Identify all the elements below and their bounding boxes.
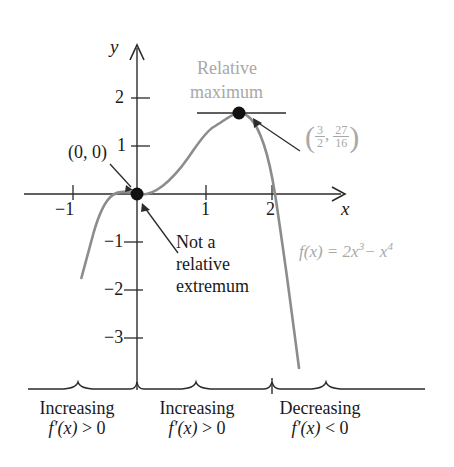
x-tick-label-1: 1 xyxy=(201,199,210,219)
origin-point-label: (0, 0) xyxy=(68,142,107,162)
not-extremum-label-line2: relative xyxy=(176,254,230,274)
interval-derivative-1: f′(x) > 0 xyxy=(18,418,136,438)
x-axis-label: x xyxy=(341,198,349,219)
equation-equals: = xyxy=(327,242,338,261)
interval-label-1: Increasing f′(x) > 0 xyxy=(18,398,136,438)
interval-derivative-fn-3: f′(x) xyxy=(291,418,320,438)
coord-y-fraction: 2716 xyxy=(333,124,349,150)
interval-behavior-2: Increasing xyxy=(138,398,256,418)
interval-label-3: Decreasing f′(x) < 0 xyxy=(258,398,382,438)
origin-point-marker xyxy=(131,188,144,201)
x-tick-label-2: 2 xyxy=(266,199,275,219)
not-extremum-label-line3: extremum xyxy=(176,276,249,296)
coord-x-fraction: 32 xyxy=(315,124,325,150)
interval-behavior-1: Increasing xyxy=(18,398,136,418)
coord-comma: , xyxy=(325,125,329,144)
y-tick-label-neg3: −3 xyxy=(104,327,123,347)
y-tick-label-1: 1 xyxy=(117,135,126,155)
equation-minus: − xyxy=(364,242,375,261)
x-tick-label-neg1: −1 xyxy=(55,199,74,219)
equation-term2-exponent: 4 xyxy=(387,240,393,252)
equation-term1: 2x xyxy=(343,242,359,261)
interval-derivative-fn-1: f′(x) xyxy=(48,418,77,438)
interval-derivative-rel-2: > 0 xyxy=(202,418,226,438)
coord-close-paren: ) xyxy=(349,120,359,153)
interval-derivative-fn-2: f′(x) xyxy=(168,418,197,438)
relative-maximum-label-line2: maximum xyxy=(190,82,263,102)
not-extremum-label-line1: Not a xyxy=(176,232,216,252)
interval-derivative-rel-3: < 0 xyxy=(325,418,349,438)
relative-maximum-label-line1: Relative xyxy=(197,58,257,78)
interval-derivative-rel-1: > 0 xyxy=(82,418,106,438)
y-axis-label: y xyxy=(110,36,118,57)
not-extremum-leader-arrow xyxy=(141,203,178,253)
relative-maximum-point-marker xyxy=(233,107,246,120)
x-tick-marks xyxy=(73,185,272,200)
equation-fn: f(x) xyxy=(299,242,323,261)
calculus-figure: x y −1 1 2 2 1 −1 −2 −3 (0, 0) Relative … xyxy=(0,0,454,467)
interval-derivative-2: f′(x) > 0 xyxy=(138,418,256,438)
relative-maximum-coordinates: (32, 2716) xyxy=(305,120,359,154)
y-tick-label-neg2: −2 xyxy=(104,279,123,299)
y-tick-label-neg1: −1 xyxy=(104,231,123,251)
interval-behavior-3: Decreasing xyxy=(258,398,382,418)
interval-brace-line xyxy=(28,378,425,394)
y-tick-label-2: 2 xyxy=(115,87,124,107)
function-equation-label: f(x) = 2x3− x4 xyxy=(299,240,393,261)
interval-label-2: Increasing f′(x) > 0 xyxy=(138,398,256,438)
origin-leader-arrow xyxy=(110,164,133,192)
interval-derivative-3: f′(x) < 0 xyxy=(258,418,382,438)
coord-open-paren: ( xyxy=(305,120,315,153)
